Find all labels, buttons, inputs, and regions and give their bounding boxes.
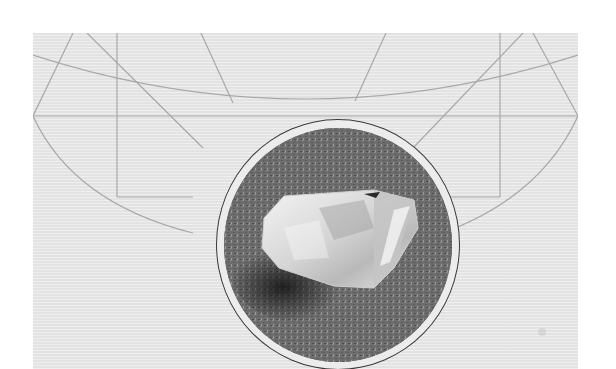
faint-mark [538,328,546,336]
quartz-crystal-illustration [224,128,452,362]
decorative-panel [33,33,578,369]
crystal-photo [224,128,452,362]
